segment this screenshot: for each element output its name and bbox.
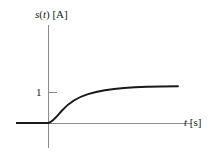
x-axis-label: t [s] [184,117,201,128]
figure-plot-step-response: s(t) [A] t [s] 1 [0,0,210,154]
curve-step-response [49,86,179,123]
y-axis-label-unit: [A] [50,8,68,20]
y-tick-label-1: 1 [36,87,42,98]
y-axis-label: s(t) [A] [35,9,68,20]
x-axis-label-unit: [s] [187,116,201,128]
plot-canvas [0,0,210,154]
